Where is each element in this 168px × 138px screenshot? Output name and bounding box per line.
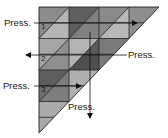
press-label-2: Press.	[128, 49, 155, 60]
press-label-4: Press.	[68, 101, 95, 112]
press-label-1: Press.	[4, 17, 31, 28]
folding-diagram: 1 2 3 Press. Press. Press. Press.	[0, 0, 168, 138]
press-label-3: Press.	[3, 80, 30, 91]
